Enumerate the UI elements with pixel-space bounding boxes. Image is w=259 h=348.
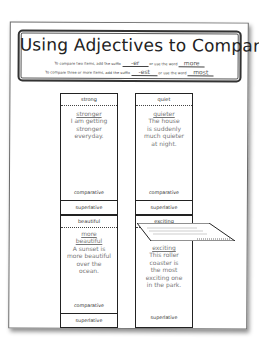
folded-flap[interactable] — [137, 223, 235, 241]
card-strong[interactable]: strong stronger I am getting stronger ev… — [60, 93, 118, 215]
instruction-text: To compare three or more items, add the … — [45, 71, 130, 75]
suffix-blank: -er — [122, 60, 148, 67]
sentence-line: stronger — [61, 125, 117, 132]
card-answer: quieter — [136, 110, 192, 117]
sentence-line: I am getting — [61, 117, 117, 124]
sentence-line: is suddenly — [136, 125, 192, 132]
card-adjective: beautiful — [61, 216, 117, 228]
card-superlative-label: superlative — [136, 315, 192, 320]
instruction-line-2: To compare three or more items, add the … — [20, 68, 240, 76]
card-adjective: strong — [61, 94, 117, 106]
instruction-line-1: To compare two items, add the suffix -er… — [20, 59, 240, 67]
card-superlative-flap[interactable]: superlative — [61, 313, 117, 327]
sentence-line: in the park. — [136, 281, 192, 288]
worksheet-paper: Using Adjectives to Compare To compare t… — [8, 21, 249, 329]
card-comparative-label: comparative — [61, 303, 117, 308]
sentence-line: much quieter — [136, 132, 192, 139]
sentence-line: This roller — [136, 251, 192, 258]
title-box: Using Adjectives to Compare To compare t… — [17, 29, 241, 82]
instruction-text: or use the word — [158, 71, 186, 75]
card-body: stronger I am getting stronger everyday. — [61, 106, 117, 140]
sentence-line: exciting one — [136, 274, 192, 281]
card-comparative-label: comparative — [61, 190, 117, 195]
card-answer: stronger — [61, 110, 117, 117]
card-beautiful[interactable]: beautiful more beautiful A sunset is mor… — [60, 215, 118, 328]
card-superlative-flap[interactable]: superlative — [61, 200, 117, 214]
sentence-line: ocean. — [61, 267, 117, 274]
card-superlative-flap[interactable]: superlative — [136, 200, 192, 214]
sentence-line: The house — [136, 117, 192, 124]
instruction-text: or use the word — [149, 62, 177, 66]
sentence-line: more beautiful — [61, 252, 117, 259]
card-answer: more beautiful — [74, 230, 104, 245]
sentence-line: the most — [136, 266, 192, 273]
card-answer: exciting — [136, 244, 192, 251]
sentence-line: over the — [61, 260, 117, 267]
word-blank: most — [188, 69, 214, 76]
worksheet-title: Using Adjectives to Compare — [20, 34, 240, 55]
instruction-text: To compare two items, add the suffix — [54, 62, 121, 66]
card-body: more beautiful A sunset is more beautifu… — [61, 228, 117, 274]
card-adjective: quiet — [136, 94, 192, 106]
card-quiet[interactable]: quiet quieter The house is suddenly much… — [135, 93, 193, 215]
word-blank: more — [179, 60, 205, 67]
sentence-line: coaster is — [136, 259, 192, 266]
sentence-line: everyday. — [61, 132, 117, 139]
sentence-line: A sunset is — [61, 245, 117, 252]
card-comparative-label: comparative — [136, 190, 192, 195]
card-body: quieter The house is suddenly much quiet… — [136, 106, 192, 147]
suffix-blank: -est — [131, 69, 157, 76]
sentence-line: at night. — [136, 140, 192, 147]
